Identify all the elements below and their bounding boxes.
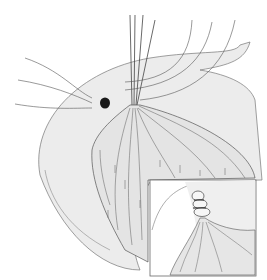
medical-illustration bbox=[0, 0, 267, 280]
ligated-tissue-inset bbox=[150, 180, 256, 276]
lesion-dot bbox=[100, 98, 110, 109]
